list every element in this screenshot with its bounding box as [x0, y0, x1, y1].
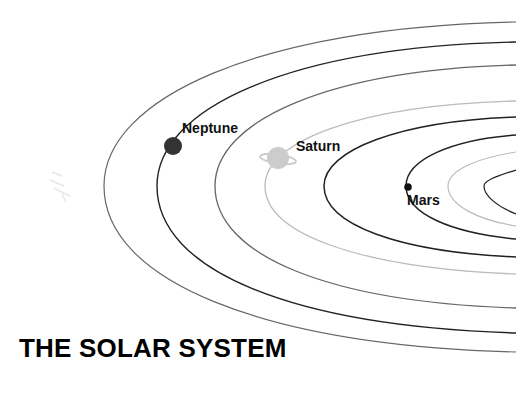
- orbit-8: [104, 22, 516, 352]
- planet-label-saturn: Saturn: [296, 138, 340, 154]
- orbit-3-mars: [406, 135, 516, 239]
- ringed-planet-icon: [260, 147, 297, 169]
- planet-label-mars: Mars: [407, 192, 440, 208]
- saturn-body: [267, 147, 289, 169]
- mars-planet-dot-icon: [404, 183, 412, 191]
- planet-mars[interactable]: Mars: [404, 183, 440, 208]
- orbit-7-neptune: [157, 42, 516, 333]
- orbits-group: [104, 22, 516, 352]
- planet-label-neptune: Neptune: [182, 120, 238, 136]
- orbit-5-saturn: [265, 101, 516, 274]
- planet-saturn[interactable]: Saturn: [260, 138, 341, 169]
- neptune-planet-dot-icon: [164, 137, 182, 155]
- orbit-2: [448, 152, 516, 226]
- orbit-1: [484, 170, 516, 214]
- comet-icon: [50, 172, 70, 202]
- page-title: THE SOLAR SYSTEM: [19, 333, 287, 364]
